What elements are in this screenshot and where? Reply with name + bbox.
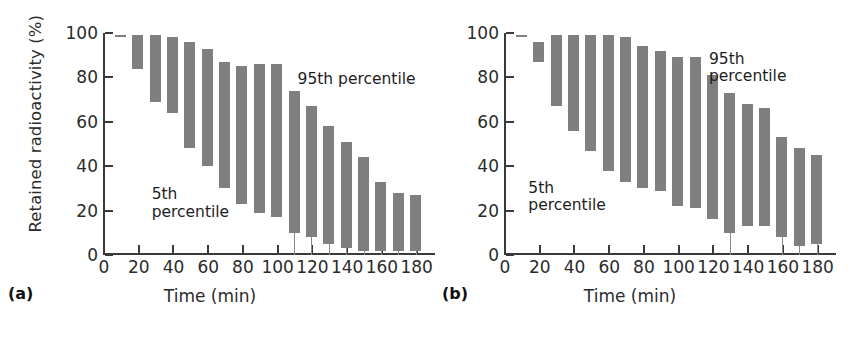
bar-stem [329, 244, 330, 255]
range-bar [236, 66, 247, 204]
range-bar [690, 57, 701, 208]
range-bar [375, 182, 386, 251]
y-tick-label: 100 [467, 23, 499, 43]
x-tick-label: 20 [128, 257, 150, 277]
bar-stem [398, 251, 399, 255]
range-bar [410, 195, 421, 251]
x-tick-label: 20 [529, 257, 551, 277]
y-tick-label: 60 [76, 112, 98, 132]
annotation-95th-b: 95th percentile [709, 51, 787, 86]
bars-a [103, 33, 433, 255]
y-tick-label: 60 [477, 112, 499, 132]
range-bar [585, 35, 596, 150]
range-bar [167, 37, 178, 112]
x-tick-label: 160 [767, 257, 799, 277]
x-tick-label: 0 [99, 257, 110, 277]
y-tick-label: 0 [488, 245, 499, 265]
annotation-95th-a: 95th percentile [298, 71, 416, 88]
y-tick-label: 40 [76, 156, 98, 176]
range-bar [150, 35, 161, 102]
annotation-5th-b: 5th percentile [528, 180, 606, 215]
bar-stem [311, 237, 312, 255]
range-bar [254, 64, 265, 213]
range-bar [202, 49, 213, 167]
x-axis-title-b: Time (min) [440, 286, 820, 306]
bar-stem [817, 244, 818, 255]
y-tick-label: 100 [66, 23, 98, 43]
x-tick-label: 120 [697, 257, 729, 277]
y-tick-label: 40 [477, 156, 499, 176]
bar-stem [730, 233, 731, 255]
range-bar [794, 148, 805, 246]
x-tick-label: 180 [801, 257, 833, 277]
range-bar [393, 193, 404, 251]
x-tick-label: 60 [197, 257, 219, 277]
panel-a: Retained radioactivity (%) 0204060801000… [0, 0, 440, 340]
range-bar [620, 37, 631, 181]
range-bar [289, 91, 300, 233]
range-bar [533, 42, 544, 62]
range-bar [603, 35, 614, 170]
x-tick-label: 140 [732, 257, 764, 277]
plot-area-a: 020406080100020406080100120140160180 [103, 33, 433, 255]
x-axis-title-a: Time (min) [20, 286, 400, 306]
range-bar [323, 126, 334, 244]
range-bar [551, 35, 562, 106]
bar-stem [799, 246, 800, 255]
range-bar [341, 142, 352, 249]
x-tick-label: 140 [331, 257, 363, 277]
panel-label-b: (b) [442, 284, 468, 303]
x-tick-label: 40 [163, 257, 185, 277]
y-axis-title-a: Retained radioactivity (%) [26, 23, 45, 233]
x-tick-label: 160 [366, 257, 398, 277]
range-bar [637, 46, 648, 188]
range-bar [306, 106, 317, 237]
x-tick-label: 100 [662, 257, 694, 277]
x-tick-label: 0 [500, 257, 511, 277]
range-bar [115, 35, 126, 37]
bar-stem [782, 237, 783, 255]
x-tick-label: 100 [261, 257, 293, 277]
x-tick-label: 80 [232, 257, 254, 277]
range-bar [516, 35, 527, 37]
range-bar [759, 108, 770, 226]
x-tick-label: 180 [400, 257, 432, 277]
y-tick-label: 20 [76, 200, 98, 220]
x-tick-label: 120 [296, 257, 328, 277]
bar-stem [364, 251, 365, 255]
range-bar [219, 62, 230, 189]
figure-container: Retained radioactivity (%) 0204060801000… [0, 0, 867, 340]
range-bar [707, 75, 718, 219]
bar-stem [416, 251, 417, 255]
range-bar [724, 93, 735, 233]
range-bar [742, 104, 753, 226]
annotation-5th-a: 5th percentile [152, 186, 230, 221]
range-bar [568, 35, 579, 130]
y-tick-label: 20 [477, 200, 499, 220]
x-tick-label: 40 [564, 257, 586, 277]
bar-stem [381, 251, 382, 255]
panel-label-a: (a) [8, 284, 33, 303]
range-bar [811, 155, 822, 244]
y-tick-label: 80 [76, 67, 98, 87]
range-bar [132, 35, 143, 68]
bar-stem [294, 233, 295, 255]
range-bar [358, 157, 369, 250]
y-tick-label: 0 [87, 245, 98, 265]
bar-stem [346, 248, 347, 255]
y-tick-label: 80 [477, 67, 499, 87]
x-tick-label: 60 [598, 257, 620, 277]
x-tick-label: 80 [633, 257, 655, 277]
range-bar [184, 42, 195, 149]
panel-b: 020406080100020406080100120140160180 95t… [440, 0, 867, 340]
range-bar [655, 51, 666, 191]
range-bar [672, 57, 683, 206]
range-bar [776, 137, 787, 237]
range-bar [271, 64, 282, 217]
